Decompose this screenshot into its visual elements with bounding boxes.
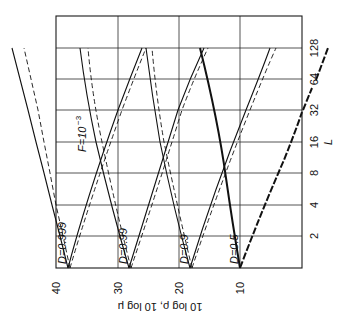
y-tick-128: 128 bbox=[308, 39, 320, 57]
f-exponent: −3 bbox=[74, 115, 83, 125]
chart: 40 30 20 10 2 4 8 16 32 64 128 L 10 log … bbox=[0, 0, 344, 317]
y-tick-32: 32 bbox=[308, 104, 320, 116]
y-ticks: 2 4 8 16 32 64 128 bbox=[308, 39, 320, 239]
f-label: F=10 bbox=[76, 126, 88, 152]
grid bbox=[56, 16, 302, 268]
label-d09: D=0.9 bbox=[178, 234, 190, 264]
x-tick-40: 40 bbox=[50, 282, 62, 294]
y-tick-64: 64 bbox=[308, 73, 320, 85]
x-ticks: 40 30 20 10 bbox=[50, 282, 246, 294]
x-axis-title: 10 log ρ, 10 log μ bbox=[118, 301, 203, 313]
label-d0999: D=0.999 bbox=[56, 222, 68, 264]
y-tick-16: 16 bbox=[308, 136, 320, 148]
f-annotation: F=10 −3 bbox=[74, 115, 88, 152]
y-tick-2: 2 bbox=[308, 233, 320, 239]
x-tick-30: 30 bbox=[112, 282, 124, 294]
y-axis-title: L bbox=[322, 139, 334, 145]
y-tick-4: 4 bbox=[308, 202, 320, 208]
label-d05: D=0.5 bbox=[228, 233, 240, 264]
y-tick-8: 8 bbox=[308, 170, 320, 176]
series-d09 bbox=[146, 48, 276, 268]
x-tick-20: 20 bbox=[173, 282, 185, 294]
label-d099: D=0.99 bbox=[117, 228, 129, 264]
x-tick-10: 10 bbox=[234, 282, 246, 294]
